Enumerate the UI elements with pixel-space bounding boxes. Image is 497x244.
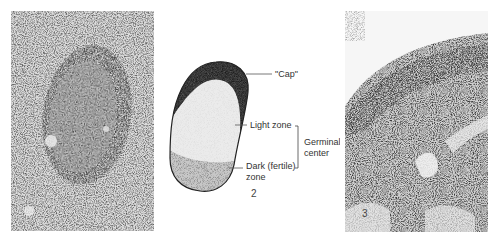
micrograph-follicle-image [11, 11, 154, 231]
dark-zone-label-line1: Dark (fertile) [246, 161, 296, 171]
figure-number-3: 3 [362, 208, 368, 219]
figure-number-2: 2 [251, 188, 257, 199]
cap-label: "Cap" [275, 69, 298, 79]
micrograph-cortex: 3 [345, 11, 488, 232]
light-zone-label: Light zone [250, 120, 292, 130]
germinal-center-diagram: "Cap" Light zone Dark (fertile) zone Ger… [160, 50, 340, 210]
germinal-center-label-line2: center [304, 148, 329, 158]
germinal-center-schematic: "Cap" Light zone Dark (fertile) zone Ger… [160, 50, 340, 210]
micrograph-cortex-image: 3 [345, 11, 488, 232]
dark-zone-label-line2: zone [246, 172, 266, 182]
germinal-center-label-line1: Germinal [304, 137, 340, 147]
micrograph-follicle [11, 11, 154, 231]
